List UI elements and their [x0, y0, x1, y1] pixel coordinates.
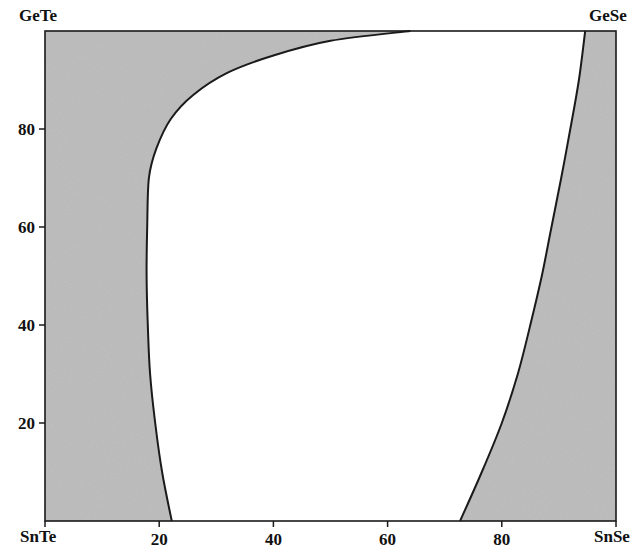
shaded-region-left — [45, 31, 410, 521]
y-axis: 20406080 — [18, 120, 45, 433]
shaded-region-right — [460, 31, 616, 521]
plot-area — [45, 31, 616, 521]
x-tick-label: 40 — [265, 530, 282, 549]
y-tick-label: 80 — [18, 120, 35, 139]
left-boundary-curve — [147, 31, 411, 521]
x-tick-label: 20 — [151, 530, 168, 549]
phase-diagram-chart: 20406080 20406080 — [0, 0, 640, 550]
y-tick-label: 60 — [18, 218, 35, 237]
y-tick-label: 40 — [18, 316, 35, 335]
x-tick-label: 60 — [379, 530, 396, 549]
x-axis: 20406080 — [45, 521, 616, 549]
y-tick-label: 20 — [18, 414, 35, 433]
x-tick-label: 80 — [493, 530, 510, 549]
